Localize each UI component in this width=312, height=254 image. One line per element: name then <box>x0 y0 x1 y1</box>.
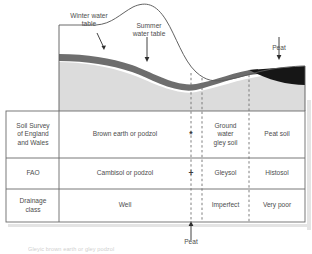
table-row-header-soil-survey: Soil Survey of England and Wales <box>7 111 59 158</box>
table-marker-plus: + <box>186 169 196 178</box>
table-marker-asterisk: * <box>186 130 196 139</box>
figure-shadow-bottom <box>8 224 308 227</box>
table-cell-peat-soil: Peat soil <box>249 111 305 158</box>
figure-footnote: Gleyic brown earth or gley podzol <box>28 246 188 253</box>
table-cell-cambisol-or-podzol: Cambisol or podzol <box>59 158 191 189</box>
table-row-header-fao: FAO <box>7 158 59 189</box>
peat-top-arrowhead <box>277 55 282 60</box>
figure-shadow <box>307 100 311 230</box>
table-cell-gleysol: Gleysol <box>202 158 249 189</box>
table-cell-brown-earth-or-podzol: Brown earth or podzol <box>59 111 191 158</box>
table-row-header-drainage-class: Drainage class <box>7 189 59 222</box>
summer-water-table-arrowhead <box>145 57 150 62</box>
winter-water-table-label: Winter water table <box>58 12 120 28</box>
table-cell-ground-water-gley-soil: Ground water gley soil <box>202 111 249 158</box>
table-cell-very-poor: Very poor <box>249 189 305 222</box>
peat-top-label: Peat <box>262 44 296 52</box>
peat-bottom-label: Peat <box>174 238 208 246</box>
table-cell-imperfect: Imperfect <box>202 189 249 222</box>
winter-water-table-leader <box>97 33 104 48</box>
table-cell-histosol: Histosol <box>249 158 305 189</box>
table-cell-well: Well <box>59 189 191 222</box>
winter-water-table-arrowhead <box>102 46 107 51</box>
summer-water-table-label: Summer water table <box>118 22 180 38</box>
soil-catena-figure: Winter water table Summer water table Pe… <box>0 0 312 254</box>
